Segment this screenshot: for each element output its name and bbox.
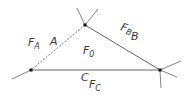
vertex-right	[159, 69, 162, 72]
label-face-c: FC	[89, 78, 101, 93]
label-edge-b: B	[131, 30, 139, 43]
label-edge-a: A	[49, 35, 58, 48]
ray-right-down	[160, 70, 161, 88]
vertex-left	[30, 69, 33, 72]
ray-top-upleft	[77, 8, 85, 25]
vertex-top	[84, 24, 87, 27]
label-face-a: FA	[28, 36, 40, 51]
triangle-diagram: FA A F0 FB B C FC	[0, 0, 190, 97]
ray-top-upright	[85, 9, 98, 25]
ray-right-upright	[160, 61, 181, 70]
ray-left-extension	[12, 70, 31, 79]
ray-right-extension	[160, 70, 177, 77]
label-edge-c: C	[81, 71, 89, 84]
label-face-0: F0	[83, 44, 94, 59]
